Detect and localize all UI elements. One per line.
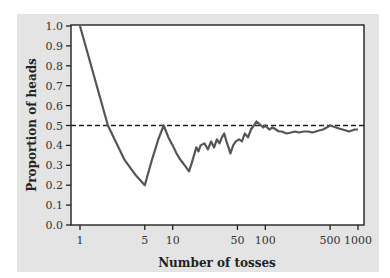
x-tick-label: 5 [141,234,148,247]
y-axis: 0.00.10.20.30.40.50.60.70.80.91.0 [46,20,72,232]
x-tick-label: 50 [230,234,244,247]
y-tick-label: 0.2 [46,179,64,192]
x-axis: 1510501005001000 [77,225,373,247]
y-tick-label: 0.0 [46,219,64,232]
x-axis-title: Number of tosses [158,256,276,270]
y-tick-label: 0.9 [46,40,64,53]
x-tick-label: 100 [255,234,276,247]
x-tick-label: 1 [77,234,84,247]
y-tick-label: 0.8 [46,60,64,73]
x-tick-label: 10 [166,234,180,247]
y-tick-label: 0.3 [46,159,64,172]
x-tick-label: 1000 [344,234,372,247]
y-tick-label: 0.1 [46,199,64,212]
y-tick-label: 0.6 [46,100,64,113]
y-tick-label: 1.0 [46,20,64,33]
y-tick-label: 0.5 [46,120,64,133]
x-tick-label: 500 [320,234,341,247]
line-chart: 0.00.10.20.30.40.50.60.70.80.91.0 151050… [0,0,390,278]
y-tick-label: 0.4 [46,139,64,152]
y-tick-label: 0.7 [46,80,64,93]
y-axis-title: Proportion of heads [25,58,39,192]
